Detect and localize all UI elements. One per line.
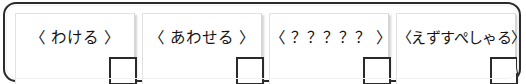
action-button-label: 〈 ？？？？？ 〉 bbox=[270, 29, 388, 47]
action-button-ezu-special[interactable]: 〈えずすぺしゃる〉 bbox=[396, 13, 516, 84]
action-button-label: 〈 あわせる 〉 bbox=[143, 29, 261, 47]
checkbox-square[interactable] bbox=[490, 57, 518, 84]
checkbox-square[interactable] bbox=[109, 57, 137, 84]
screen-root: 〈 わける 〉 〈 あわせる 〉 〈 ？？？？？ 〉 〈えずすぺしゃる〉 bbox=[0, 0, 526, 84]
action-button-awaseru[interactable]: 〈 あわせる 〉 bbox=[142, 13, 262, 84]
action-button-label: 〈えずすぺしゃる〉 bbox=[397, 29, 515, 47]
outer-frame: 〈 わける 〉 〈 あわせる 〉 〈 ？？？？？ 〉 〈えずすぺしゃる〉 bbox=[3, 2, 521, 82]
action-button-label: 〈 わける 〉 bbox=[16, 29, 134, 47]
action-button-unknown[interactable]: 〈 ？？？？？ 〉 bbox=[269, 13, 389, 84]
action-button-row: 〈 わける 〉 〈 あわせる 〉 〈 ？？？？？ 〉 〈えずすぺしゃる〉 bbox=[15, 13, 521, 84]
checkbox-square[interactable] bbox=[236, 57, 264, 84]
checkbox-square[interactable] bbox=[363, 57, 391, 84]
action-button-wakeru[interactable]: 〈 わける 〉 bbox=[15, 13, 135, 84]
